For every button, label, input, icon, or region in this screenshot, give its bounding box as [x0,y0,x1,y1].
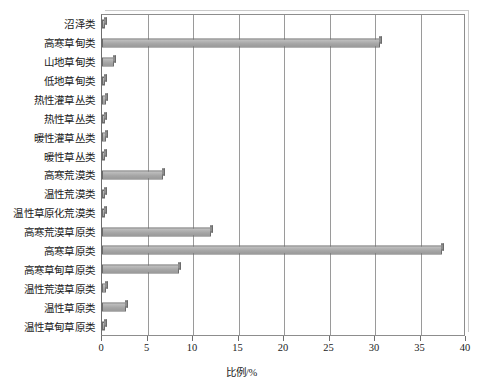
bar [102,114,105,123]
bar [102,302,126,311]
x-tick-mark [465,336,466,341]
bar [102,171,163,180]
bar [102,265,179,274]
category-label: 高寒荒漠类 [0,166,99,185]
category-label: 高寒草原类 [0,241,99,260]
x-tick-mark [420,336,421,341]
bar [102,284,106,293]
category-label: 热性草丛类 [0,109,99,128]
bar [102,39,380,48]
category-axis-labels: 沼泽类高寒草甸类山地草甸类低地草甸类热性灌草丛类热性草丛类暖性灌草丛类暖性草丛类… [0,14,99,336]
category-label: 高寒草甸草原类 [0,260,99,279]
bar-slot [102,316,464,335]
category-label: 山地草甸类 [0,52,99,71]
bar-chart: 沼泽类高寒草甸类山地草甸类低地草甸类热性灌草丛类热性草丛类暖性灌草丛类暖性草丛类… [0,0,483,391]
category-label: 暖性草丛类 [0,147,99,166]
bar [102,95,106,104]
category-label: 温性荒漠类 [0,184,99,203]
category-label: 温性草原类 [0,298,99,317]
x-tick-label: 10 [187,342,198,353]
x-axis-tick-labels: 0510152025303540 [101,342,465,358]
category-label: 低地草甸类 [0,71,99,90]
x-tick-label: 25 [323,342,334,353]
x-tick-label: 30 [369,342,380,353]
bar-slot [102,184,464,203]
bar-slot [102,203,464,222]
category-label: 沼泽类 [0,14,99,33]
category-label: 高寒荒漠草原类 [0,222,99,241]
bar-slot [102,34,464,53]
bar-slot [102,260,464,279]
x-tick-label: 0 [98,342,103,353]
category-label: 温性荒漠草原类 [0,279,99,298]
bar-slot [102,71,464,90]
bar [102,189,105,198]
x-tick-mark [192,336,193,341]
plot-area [101,14,465,336]
bar-slot [102,147,464,166]
x-tick-mark [329,336,330,341]
bar-slot [102,128,464,147]
bar [102,76,105,85]
bar [102,227,211,236]
x-tick-label: 20 [278,342,289,353]
bar [102,58,114,67]
x-tick-label: 5 [144,342,149,353]
bar-slot [102,53,464,72]
category-label: 温性草甸草原类 [0,317,99,336]
bar-slot [102,241,464,260]
bar [102,152,105,161]
bar-slot [102,279,464,298]
bar [102,133,106,142]
x-tick-mark [283,336,284,341]
x-axis-title: 比例/% [0,364,483,379]
x-tick-mark [238,336,239,341]
x-tick-label: 15 [232,342,243,353]
category-label: 温性草原化荒漠类 [0,203,99,222]
x-tick-mark [147,336,148,341]
bar [102,208,105,217]
category-label: 高寒草甸类 [0,33,99,52]
x-tick-mark [101,336,102,341]
bar-slot [102,109,464,128]
bar [102,246,442,255]
bar [102,20,105,29]
category-label: 暖性灌草丛类 [0,128,99,147]
category-label: 热性灌草丛类 [0,90,99,109]
x-tick-label: 40 [460,342,471,353]
bar-slot [102,90,464,109]
x-tick-mark [374,336,375,341]
bar-slot [102,15,464,34]
bar [102,321,105,330]
bar-slot [102,297,464,316]
bar-slot [102,166,464,185]
bar-series [102,15,464,335]
bar-slot [102,222,464,241]
x-tick-label: 35 [414,342,425,353]
